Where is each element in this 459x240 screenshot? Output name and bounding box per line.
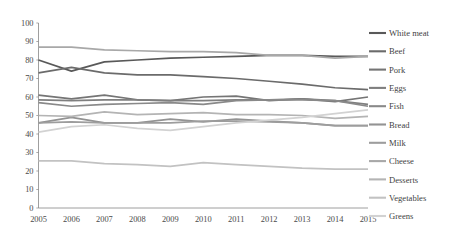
x-tick-label: 2010 (195, 215, 212, 224)
legend-label-white-meat[interactable]: White meat (389, 28, 429, 38)
y-tick-label: 0 (29, 204, 33, 213)
x-tick-label: 2014 (327, 215, 345, 224)
chart-canvas: 1009080706050403020100 20052006200720082… (0, 0, 459, 240)
legend-label-milk[interactable]: Milk (389, 138, 406, 148)
y-tick-label: 90 (25, 37, 33, 46)
y-tick-label: 70 (25, 74, 33, 83)
legend-label-eggs[interactable]: Eggs (389, 83, 407, 93)
line-chart: 1009080706050403020100 20052006200720082… (0, 0, 459, 240)
y-tick-label: 50 (25, 111, 33, 120)
legend-label-fish[interactable]: Fish (389, 101, 405, 111)
legend-label-beef[interactable]: Beef (389, 46, 405, 56)
x-tick-label: 2011 (228, 215, 244, 224)
x-tick-label: 2006 (63, 215, 80, 224)
x-tick-label: 2013 (294, 215, 311, 224)
legend-label-desserts[interactable]: Desserts (389, 175, 419, 185)
y-tick-label: 20 (25, 167, 33, 176)
legend-label-bread[interactable]: Bread (389, 120, 410, 130)
y-tick-label: 100 (21, 19, 34, 28)
legend-label-vegetables[interactable]: Vegetables (389, 193, 427, 203)
legend-label-pork[interactable]: Pork (389, 65, 406, 75)
y-tick-label: 10 (25, 185, 33, 194)
x-tick-label: 2009 (162, 215, 179, 224)
x-tick-label: 2007 (96, 215, 113, 224)
legend-label-greens[interactable]: Greens (389, 211, 414, 221)
x-tick-label: 2012 (261, 215, 278, 224)
x-tick-label: 2005 (30, 215, 47, 224)
x-tick-label: 2008 (129, 215, 146, 224)
y-tick-label: 60 (25, 93, 33, 102)
y-tick-label: 30 (25, 148, 33, 157)
legend-label-cheese[interactable]: Cheese (389, 156, 414, 166)
y-tick-label: 80 (25, 56, 33, 65)
y-tick-label: 40 (25, 130, 33, 139)
